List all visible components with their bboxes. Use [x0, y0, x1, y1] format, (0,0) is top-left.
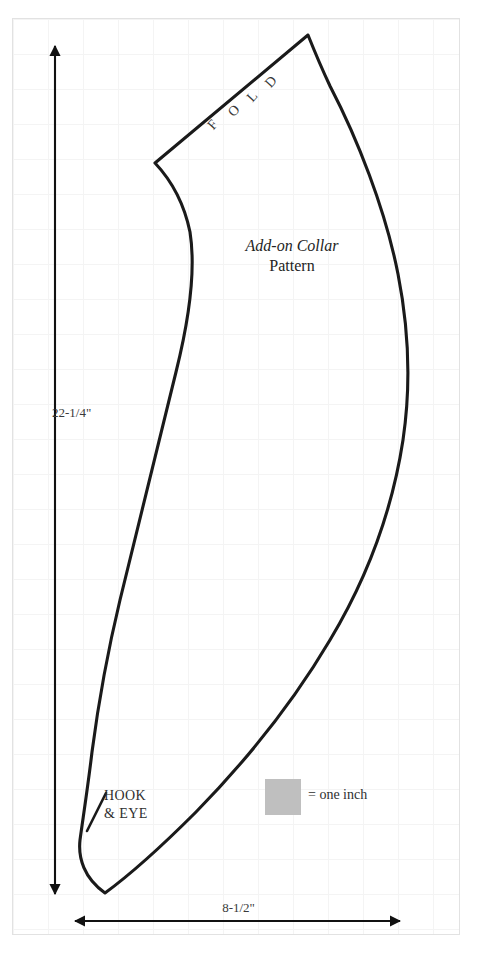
pattern-page: F O L D Add-on Collar Pattern 22-1/4" 8-… — [0, 0, 477, 953]
pattern-title: Add-on Collar Pattern — [232, 236, 352, 276]
hook-and-eye-line1: HOOK — [104, 787, 148, 805]
scale-swatch — [265, 779, 301, 815]
height-dimension-label: 22-1/4" — [52, 405, 91, 421]
pattern-title-line2: Pattern — [232, 256, 352, 276]
width-dimension-label: 8-1/2" — [0, 900, 477, 916]
pattern-title-line1: Add-on Collar — [232, 236, 352, 256]
pattern-artboard: F O L D Add-on Collar Pattern 22-1/4" 8-… — [0, 0, 477, 953]
hook-and-eye-label: HOOK & EYE — [104, 787, 148, 822]
hook-and-eye-line2: & EYE — [104, 805, 148, 823]
collar-outline-path — [80, 35, 408, 893]
scale-legend-label: = one inch — [308, 787, 367, 803]
pattern-drawing-svg — [0, 0, 477, 953]
